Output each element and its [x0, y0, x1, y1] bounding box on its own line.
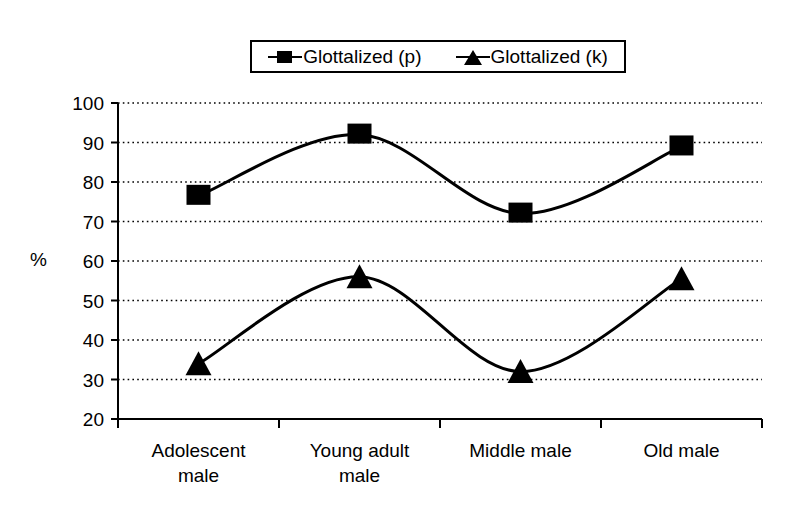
square-marker-icon — [348, 124, 372, 144]
chart-container: Glottalized (p) Glottalized (k) % 100908… — [0, 0, 789, 512]
x-axis-ticks — [118, 419, 762, 428]
square-marker-icon — [509, 203, 533, 223]
y-tick-label: 70 — [83, 212, 104, 233]
triangle-marker-icon — [669, 266, 695, 290]
y-tick-label: 20 — [83, 409, 104, 430]
x-category-label: male — [178, 465, 219, 486]
y-tick-label: 90 — [83, 133, 104, 154]
y-tick-label: 40 — [83, 330, 104, 351]
y-tick-label: 30 — [83, 370, 104, 391]
triangle-marker-icon — [186, 351, 212, 375]
x-category-label: Middle male — [469, 440, 571, 461]
y-tick-label: 50 — [83, 291, 104, 312]
plot-area: 1009080706050403020 AdolescentmaleYoung … — [0, 0, 789, 512]
series-line — [199, 134, 682, 213]
x-category-label: Young adult — [310, 440, 410, 461]
x-category-label: male — [339, 465, 380, 486]
y-tick-label: 100 — [72, 93, 104, 114]
y-tick-label: 80 — [83, 172, 104, 193]
square-marker-icon — [670, 135, 694, 155]
square-marker-icon — [187, 185, 211, 205]
y-axis-ticks — [111, 103, 118, 419]
y-tick-labels: 1009080706050403020 — [72, 93, 104, 430]
series-lines — [199, 134, 682, 371]
x-category-label: Old male — [643, 440, 719, 461]
gridlines — [118, 103, 762, 380]
series-line — [199, 277, 682, 372]
y-tick-label: 60 — [83, 251, 104, 272]
x-category-labels: AdolescentmaleYoung adultmaleMiddle male… — [151, 440, 719, 486]
x-category-label: Adolescent — [151, 440, 246, 461]
